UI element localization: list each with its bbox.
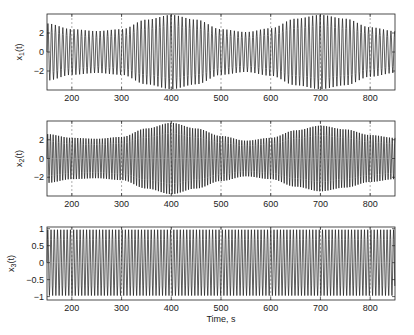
y-axis-label: x1(t) — [14, 44, 25, 61]
y-tick-label: −2 — [34, 66, 44, 76]
x-tick-label: 800 — [363, 303, 378, 313]
x-tick-label: 600 — [263, 93, 278, 103]
y-tick-label: 1 — [39, 224, 44, 234]
x-tick-label: 200 — [64, 93, 79, 103]
x-tick-label: 500 — [213, 93, 228, 103]
panel-x2: 200300400500600700800−202x2(t) — [14, 121, 395, 209]
panel-x3: 200300400500600700800−1−0.500.51x3(t)Tim… — [6, 224, 395, 324]
y-tick-label: 0 — [39, 154, 44, 164]
x-tick-label: 300 — [114, 93, 129, 103]
x-tick-label: 500 — [213, 199, 228, 209]
y-tick-label: −0.5 — [26, 275, 44, 285]
y-tick-label: 0 — [39, 47, 44, 57]
x-tick-label: 700 — [313, 93, 328, 103]
x-tick-label: 500 — [213, 303, 228, 313]
x-tick-label: 300 — [114, 199, 129, 209]
x-tick-label: 300 — [114, 303, 129, 313]
x-axis-label: Time, s — [206, 314, 236, 324]
x-tick-label: 800 — [363, 199, 378, 209]
y-axis-label: x2(t) — [14, 150, 25, 167]
y-tick-label: −2 — [34, 172, 44, 182]
y-tick-label: 2 — [39, 28, 44, 38]
y-tick-label: 0 — [39, 258, 44, 268]
x-tick-label: 200 — [64, 303, 79, 313]
x-tick-label: 400 — [164, 199, 179, 209]
x-tick-label: 700 — [313, 303, 328, 313]
chart-figure: 200300400500600700800−202x1(t)2003004005… — [0, 0, 414, 335]
y-tick-label: −1 — [34, 292, 44, 302]
panel-x1: 200300400500600700800−202x1(t) — [14, 14, 395, 103]
x-tick-label: 400 — [164, 303, 179, 313]
x-tick-label: 800 — [363, 93, 378, 103]
x-tick-label: 600 — [263, 303, 278, 313]
x-tick-label: 600 — [263, 199, 278, 209]
y-tick-label: 2 — [39, 135, 44, 145]
x-tick-label: 200 — [64, 199, 79, 209]
y-axis-label: x3(t) — [6, 255, 17, 272]
y-tick-label: 0.5 — [31, 241, 44, 251]
x-tick-label: 700 — [313, 199, 328, 209]
x-tick-label: 400 — [164, 93, 179, 103]
